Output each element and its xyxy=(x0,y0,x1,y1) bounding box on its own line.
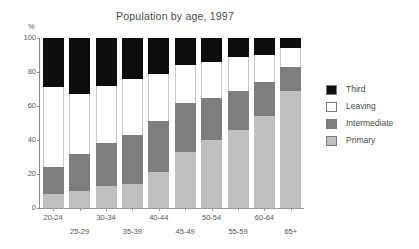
x-axis-tick-mark xyxy=(159,208,160,211)
bar-segment-primary[interactable] xyxy=(201,140,222,208)
legend-label: Third xyxy=(346,84,365,95)
x-axis-label-40-44: 40-44 xyxy=(149,213,168,222)
x-axis-tick-mark xyxy=(291,208,292,211)
bar-30-34[interactable] xyxy=(96,38,117,208)
bar-segment-leaving[interactable] xyxy=(43,87,64,167)
bar-segment-third[interactable] xyxy=(254,38,275,55)
x-axis-tick-mark xyxy=(212,208,213,211)
bar-segment-third[interactable] xyxy=(43,38,64,87)
x-axis-tick-mark xyxy=(238,208,239,211)
bar-segment-primary[interactable] xyxy=(280,91,301,208)
x-axis-label-30-34: 30-34 xyxy=(96,213,115,222)
bar-segment-intermediate[interactable] xyxy=(228,91,249,130)
y-axis-unit-label: % xyxy=(28,22,35,31)
x-axis-label-60-64: 60-64 xyxy=(255,213,274,222)
y-axis-tick-mark xyxy=(37,106,40,107)
bar-20-24[interactable] xyxy=(43,38,64,208)
bar-segment-primary[interactable] xyxy=(96,186,117,208)
y-axis-tick-label: 80 xyxy=(28,68,36,76)
bar-segment-intermediate[interactable] xyxy=(201,98,222,141)
bar-segment-third[interactable] xyxy=(69,38,90,94)
bar-segment-primary[interactable] xyxy=(228,130,249,208)
x-axis-tick-mark xyxy=(132,208,133,211)
bar-segment-intermediate[interactable] xyxy=(122,135,143,184)
x-axis-label-65+: 65+ xyxy=(284,227,297,236)
legend-label: Leaving xyxy=(346,101,376,112)
y-axis-line xyxy=(39,38,40,208)
legend-swatch-icon xyxy=(326,85,337,95)
bar-40-44[interactable] xyxy=(148,38,169,208)
bar-segment-primary[interactable] xyxy=(148,172,169,208)
bar-segment-leaving[interactable] xyxy=(228,57,249,91)
bar-segment-primary[interactable] xyxy=(69,191,90,208)
legend-swatch-icon xyxy=(326,102,337,112)
bar-segment-leaving[interactable] xyxy=(148,74,169,122)
x-axis-tick-mark xyxy=(106,208,107,211)
y-axis-tick-label: 40 xyxy=(28,136,36,144)
bar-35-39[interactable] xyxy=(122,38,143,208)
chart-title: Population by age, 1997 xyxy=(60,10,290,22)
bar-segment-third[interactable] xyxy=(96,38,117,86)
y-axis-tick-mark xyxy=(37,38,40,39)
bar-segment-intermediate[interactable] xyxy=(175,103,196,152)
bar-segment-intermediate[interactable] xyxy=(254,82,275,116)
bar-segment-leaving[interactable] xyxy=(201,62,222,98)
plot-area: 020406080100 xyxy=(40,38,304,208)
bar-segment-intermediate[interactable] xyxy=(96,143,117,186)
bar-segment-intermediate[interactable] xyxy=(69,154,90,191)
x-axis-tick-mark xyxy=(264,208,265,211)
bar-segment-intermediate[interactable] xyxy=(148,121,169,172)
x-axis-label-55-59: 55-59 xyxy=(228,227,247,236)
legend-label: Primary xyxy=(346,135,375,146)
legend-swatch-icon xyxy=(326,119,337,129)
bar-segment-leaving[interactable] xyxy=(175,65,196,102)
bar-segment-third[interactable] xyxy=(228,38,249,57)
bar-55-59[interactable] xyxy=(228,38,249,208)
chart-container: Population by age, 1997 % 020406080100 T… xyxy=(0,0,419,249)
legend-label: Intermediate xyxy=(346,118,393,129)
bar-segment-leaving[interactable] xyxy=(96,86,117,144)
y-axis-tick-mark xyxy=(37,174,40,175)
y-axis-tick-label: 100 xyxy=(23,34,36,42)
bar-65+[interactable] xyxy=(280,38,301,208)
bar-segment-third[interactable] xyxy=(280,38,301,48)
bar-segment-third[interactable] xyxy=(201,38,222,62)
legend-swatch-icon xyxy=(326,136,337,146)
x-axis-label-50-54: 50-54 xyxy=(202,213,221,222)
bar-60-64[interactable] xyxy=(254,38,275,208)
bar-segment-third[interactable] xyxy=(148,38,169,74)
y-axis-tick-mark xyxy=(37,72,40,73)
y-axis-tick-label: 60 xyxy=(28,102,36,110)
y-axis-tick-mark xyxy=(37,208,40,209)
bar-50-54[interactable] xyxy=(201,38,222,208)
x-axis-label-45-49: 45-49 xyxy=(176,227,195,236)
bar-segment-leaving[interactable] xyxy=(280,48,301,67)
x-axis-label-20-24: 20-24 xyxy=(44,213,63,222)
bar-segment-third[interactable] xyxy=(175,38,196,65)
x-axis-tick-mark xyxy=(53,208,54,211)
x-axis-tick-mark xyxy=(80,208,81,211)
bar-segment-primary[interactable] xyxy=(254,116,275,208)
bar-segment-primary[interactable] xyxy=(122,184,143,208)
y-axis-tick-label: 0 xyxy=(32,204,36,212)
bar-segment-intermediate[interactable] xyxy=(43,167,64,194)
bar-segment-leaving[interactable] xyxy=(69,94,90,154)
x-axis-label-25-29: 25-29 xyxy=(70,227,89,236)
bar-segment-third[interactable] xyxy=(122,38,143,79)
x-axis-tick-mark xyxy=(185,208,186,211)
bar-segment-intermediate[interactable] xyxy=(280,67,301,91)
bar-segment-leaving[interactable] xyxy=(122,79,143,135)
y-axis-tick-label: 20 xyxy=(28,170,36,178)
x-axis-label-35-39: 35-39 xyxy=(123,227,142,236)
bar-segment-primary[interactable] xyxy=(175,152,196,208)
y-axis-tick-mark xyxy=(37,140,40,141)
bar-25-29[interactable] xyxy=(69,38,90,208)
bar-segment-leaving[interactable] xyxy=(254,55,275,82)
bar-segment-primary[interactable] xyxy=(43,194,64,208)
bar-45-49[interactable] xyxy=(175,38,196,208)
